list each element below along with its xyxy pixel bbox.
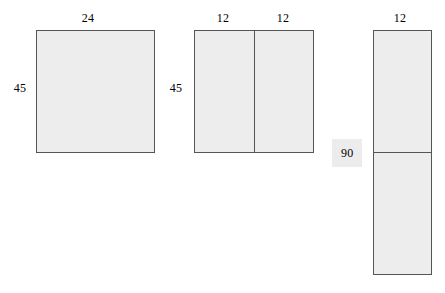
dimension-label-fig1-left: 45: [10, 82, 30, 94]
divider-vertical-fig2: [254, 30, 255, 153]
dimension-label-fig3-left: 90: [332, 139, 362, 167]
dimension-label-fig1-top: 24: [76, 12, 100, 24]
diagram-canvas: 24 45 12 12 45 12 90: [0, 0, 445, 293]
shape-rectangle-1: [36, 30, 155, 153]
dimension-label-fig2-top-left: 12: [212, 12, 234, 24]
divider-horizontal-fig3: [373, 152, 432, 153]
dimension-label-fig2-top-right: 12: [272, 12, 294, 24]
dimension-label-fig2-left: 45: [166, 82, 186, 94]
dimension-label-fig3-top: 12: [389, 12, 411, 24]
